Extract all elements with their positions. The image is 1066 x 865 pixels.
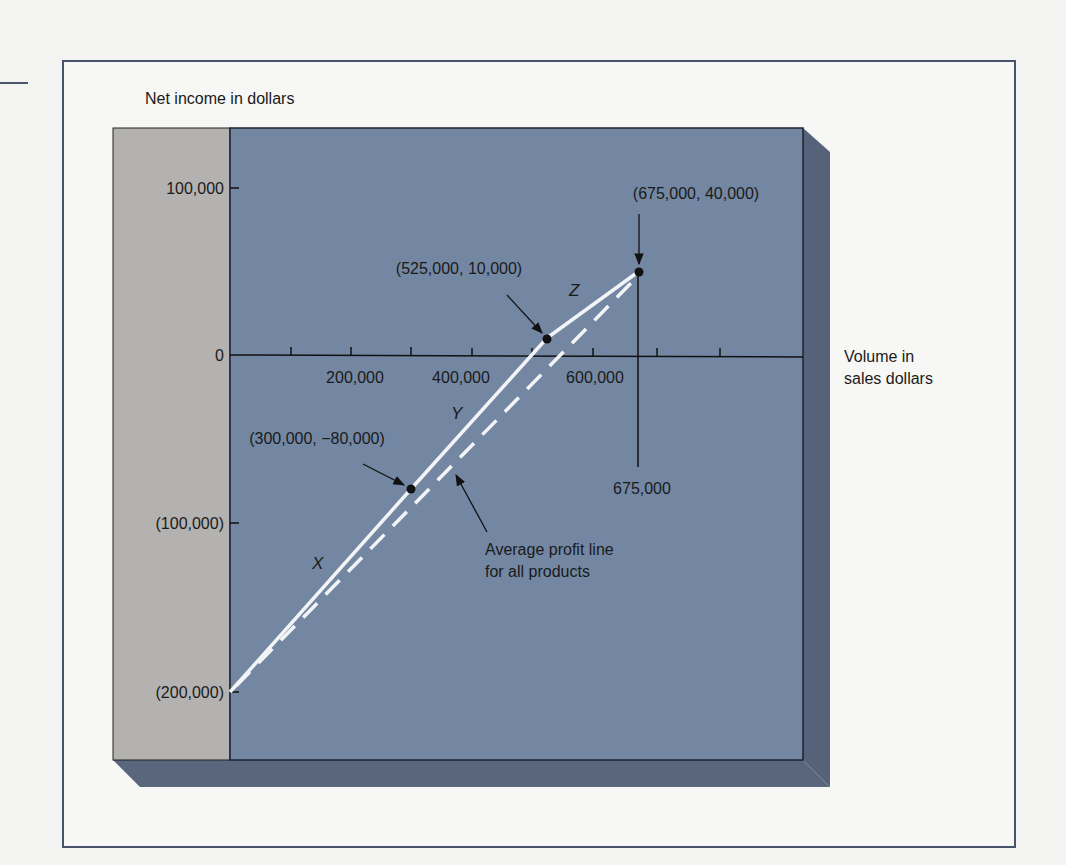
y-tick-neg100000: (100,000) (156, 515, 225, 532)
point-675000 (635, 268, 644, 277)
average-profit-label-line1: Average profit line (485, 541, 614, 558)
y-tick-neg200000: (200,000) (156, 684, 225, 701)
point-300000 (407, 485, 416, 494)
chart: Net income in dollars 100,000 0 (100,000… (0, 0, 1066, 865)
segment-label-y: Y (451, 404, 464, 423)
segment-label-x: X (311, 554, 324, 573)
box-shadow-right (803, 128, 830, 787)
y-axis-title: Net income in dollars (145, 90, 294, 107)
y-label-panel (113, 128, 230, 760)
average-profit-label-line2: for all products (485, 563, 590, 580)
segment-label-z: Z (568, 281, 580, 300)
point-525000 (543, 335, 552, 344)
label-point-300000: (300,000, −80,000) (249, 430, 385, 447)
x-axis-title-line2: sales dollars (844, 370, 933, 387)
label-point-525000: (525,000, 10,000) (396, 260, 522, 277)
x-tick-400000: 400,000 (432, 369, 490, 386)
x-marker-675000: 675,000 (613, 480, 671, 497)
x-tick-200000: 200,000 (326, 369, 384, 386)
label-point-675000: (675,000, 40,000) (633, 185, 759, 202)
x-axis-title-line1: Volume in (844, 348, 914, 365)
box-shadow-bottom (113, 760, 830, 787)
x-tick-600000: 600,000 (566, 369, 624, 386)
y-tick-100000: 100,000 (166, 180, 224, 197)
y-tick-0: 0 (215, 347, 224, 364)
